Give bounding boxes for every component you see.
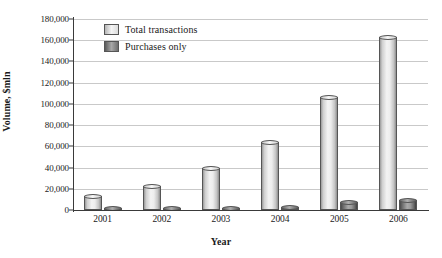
bar-group [320,19,358,210]
y-axis-tick-mark [69,167,73,168]
legend-swatch-icon-total-transactions [104,24,119,35]
x-axis-tick-label: 2004 [250,214,310,224]
bar-group [202,19,240,210]
y-axis-tick-mark [69,61,73,62]
y-axis-tick-mark [69,82,73,83]
gridline [73,61,428,62]
bar-chart: 020,00040,00060,00080,000100,000120,0001… [0,0,442,258]
y-axis-title: Volume, $mln [1,71,12,131]
y-axis-tick-label: 20,000 [45,184,69,194]
gridline [73,189,428,190]
gridline [73,146,428,147]
y-axis-tick-mark [69,210,73,211]
y-axis-tick-mark [69,103,73,104]
x-axis-tick-label: 2006 [368,214,428,224]
bar-total-transactions [320,97,338,210]
legend-label-purchases-only: Purchases only [125,41,187,52]
y-axis-tick-label: 160,000 [40,35,69,45]
gridline [73,104,428,105]
y-axis-tick-mark [69,19,73,20]
x-axis-tick-label: 2002 [132,214,192,224]
x-axis-tick-label: 2005 [309,214,369,224]
y-axis-tick-label: 120,000 [40,78,69,88]
legend-swatch-icon-purchases-only [104,41,119,52]
y-axis-tick-mark [69,188,73,189]
y-axis-tick-mark [69,146,73,147]
y-axis-tick-label: 60,000 [45,141,69,151]
bar-total-transactions [261,142,279,210]
gridline [73,83,428,84]
legend-item-purchases-only: Purchases only [104,39,197,54]
y-axis-tick-mark [69,125,73,126]
y-axis-tick-mark [69,40,73,41]
x-axis-title: Year [0,236,442,247]
y-axis-tick-label: 100,000 [40,99,69,109]
bar-purchases-only [340,202,358,210]
x-axis-line [73,210,429,211]
y-axis-tick-label: 40,000 [45,163,69,173]
bar-group [379,19,417,210]
y-axis-tick-label: 180,000 [40,14,69,24]
x-axis-tick-label: 2001 [73,214,133,224]
gridline [73,19,428,20]
legend-item-total-transactions: Total transactions [104,22,197,37]
chart-legend: Total transactions Purchases only [104,22,197,56]
y-axis-line [73,17,74,212]
bar-group [261,19,299,210]
gridline [73,125,428,126]
bar-total-transactions [379,37,397,210]
y-axis-tick-label: 80,000 [45,120,69,130]
legend-label-total-transactions: Total transactions [125,24,197,35]
bar-total-transactions [84,196,102,210]
gridline [73,168,428,169]
bar-total-transactions [143,186,161,210]
x-axis-tick-label: 2003 [191,214,251,224]
bar-total-transactions [202,168,220,210]
y-axis-tick-label: 140,000 [40,56,69,66]
bar-purchases-only [399,200,417,210]
